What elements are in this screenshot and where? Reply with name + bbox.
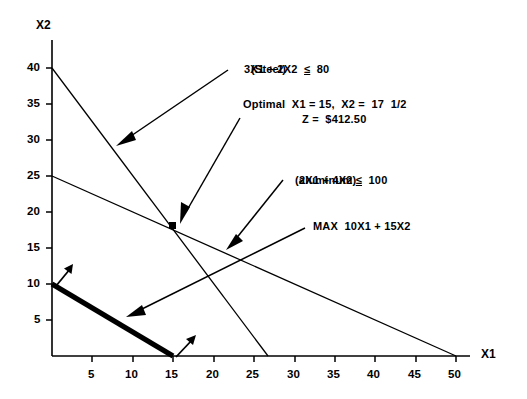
y-tick-25: 25: [27, 169, 40, 181]
aluminum-constraint-caption: (aluminum): [295, 173, 356, 188]
y-tick-35: 35: [27, 97, 40, 109]
improve-direction-upper-arrow: [56, 264, 73, 286]
y-tick-5: 5: [34, 313, 40, 325]
x-tick-10: 10: [125, 368, 138, 380]
steel-constraint-caption: (Steel): [251, 62, 286, 77]
steel-leader-arrow: [116, 70, 228, 146]
improve-direction-lower-arrow: [176, 335, 196, 357]
x-tick-40: 40: [367, 368, 380, 380]
steel-constraint-rhs: 80: [317, 63, 330, 75]
x-axis-label: X1: [481, 347, 496, 361]
y-axis-label: X2: [36, 18, 51, 32]
x-tick-20: 20: [206, 368, 219, 380]
objective-function-annotation: MAX 10X1 + 15X2: [313, 219, 411, 234]
y-tick-20: 20: [27, 205, 40, 217]
x-tick-45: 45: [408, 368, 421, 380]
y-tick-15: 15: [27, 241, 40, 253]
lp-graph-figure: X2 X1 40 35 30 25 20 15 10 5 5 10 15 20 …: [0, 0, 527, 399]
aluminum-constraint-line: [52, 176, 456, 356]
y-axis-ticks: [46, 68, 52, 320]
aluminum-constraint-rhs: 100: [369, 174, 388, 186]
x-axis-ticks: [92, 356, 456, 362]
optimal-leader-arrow: [180, 118, 240, 224]
steel-constraint-line: [52, 68, 268, 356]
x-tick-50: 50: [448, 368, 461, 380]
y-tick-40: 40: [27, 61, 40, 73]
x-tick-35: 35: [327, 368, 340, 380]
objective-leader-arrow: [126, 228, 305, 317]
y-tick-10: 10: [27, 277, 40, 289]
x-tick-30: 30: [287, 368, 300, 380]
x-tick-5: 5: [88, 368, 94, 380]
optimal-solution-values: Optimal X1 = 15, X2 = 17 1/2: [243, 97, 407, 112]
optimal-objective-value: Z = $412.50: [302, 112, 366, 127]
aluminum-leader-arrow: [226, 180, 283, 250]
objective-function-line: [52, 284, 173, 356]
x-tick-15: 15: [165, 368, 178, 380]
y-tick-30: 30: [27, 133, 40, 145]
x-tick-25: 25: [246, 368, 259, 380]
optimal-point-marker: [169, 222, 176, 229]
